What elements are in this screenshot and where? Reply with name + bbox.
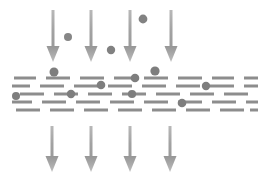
particle [67,90,75,98]
particle [50,68,59,77]
background [0,0,267,180]
medium-dash-row [16,109,258,112]
particle [131,74,140,83]
particle [64,33,72,41]
particle [178,99,187,108]
particle [12,92,20,100]
particle [150,66,159,75]
particle [139,15,148,24]
diagram-canvas [0,0,267,180]
particle [202,82,210,90]
filtration-diagram [0,0,267,180]
particle [97,81,106,90]
particle [107,46,115,54]
particle [128,90,136,98]
